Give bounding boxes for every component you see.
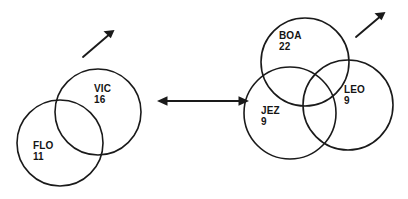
right-group-pointer-arrow xyxy=(356,12,386,37)
right-group xyxy=(244,12,393,159)
set-label-vic-name: VIC xyxy=(94,84,111,95)
diagram-canvas: VIC 16 FLO 11 BOA 22 LEO 9 JEZ 9 xyxy=(0,0,408,199)
set-label-boa-count: 22 xyxy=(279,42,302,53)
set-circle-jez[interactable] xyxy=(244,67,336,159)
set-label-boa: BOA 22 xyxy=(279,31,302,52)
set-label-flo: FLO 11 xyxy=(33,141,53,162)
set-label-flo-name: FLO xyxy=(33,141,53,152)
set-circle-vic[interactable] xyxy=(55,69,141,155)
set-label-jez: JEZ 9 xyxy=(261,106,280,127)
set-label-leo: LEO 9 xyxy=(344,85,365,106)
set-label-vic-count: 16 xyxy=(94,95,111,106)
set-label-leo-count: 9 xyxy=(344,96,365,107)
set-label-boa-name: BOA xyxy=(279,31,302,42)
set-circle-flo[interactable] xyxy=(17,100,103,186)
set-label-jez-count: 9 xyxy=(261,117,280,128)
set-label-flo-count: 11 xyxy=(33,152,53,163)
left-group xyxy=(17,30,141,186)
set-label-leo-name: LEO xyxy=(344,85,365,96)
set-label-jez-name: JEZ xyxy=(261,106,280,117)
set-label-vic: VIC 16 xyxy=(94,84,111,105)
left-group-pointer-arrow xyxy=(83,30,115,57)
bidirectional-connector-arrow xyxy=(157,96,249,106)
